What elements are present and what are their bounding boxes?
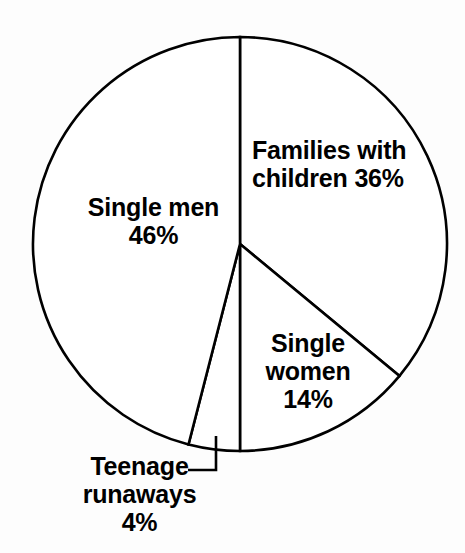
pie-label-families-line-2: children 36% <box>252 164 404 192</box>
pie-label-families-line-1: Families with <box>252 136 406 164</box>
pie-label-teenage-line-1: Teenage <box>90 452 188 480</box>
pie-label-single-women-line-1: Single <box>271 329 345 357</box>
pie-label-teenage-runaways: Teenagerunaways4% <box>58 452 221 536</box>
pie-label-single-women-line-2: women <box>265 357 350 385</box>
pie-label-teenage-line-3: 4% <box>122 508 158 536</box>
pie-label-single-men: Single men46% <box>71 193 236 249</box>
pie-label-single-women-line-3: 14% <box>283 385 332 413</box>
pie-label-families-with-children: Families withchildren 36% <box>252 136 406 192</box>
pie-label-single-women: Singlewomen14% <box>248 329 368 413</box>
pie-label-single-men-line-1: Single men <box>88 193 219 221</box>
pie-label-teenage-line-2: runaways <box>83 480 197 508</box>
pie-label-single-men-line-2: 46% <box>129 221 178 249</box>
pie-chart: Families withchildren 36% Single men46% … <box>0 0 465 553</box>
